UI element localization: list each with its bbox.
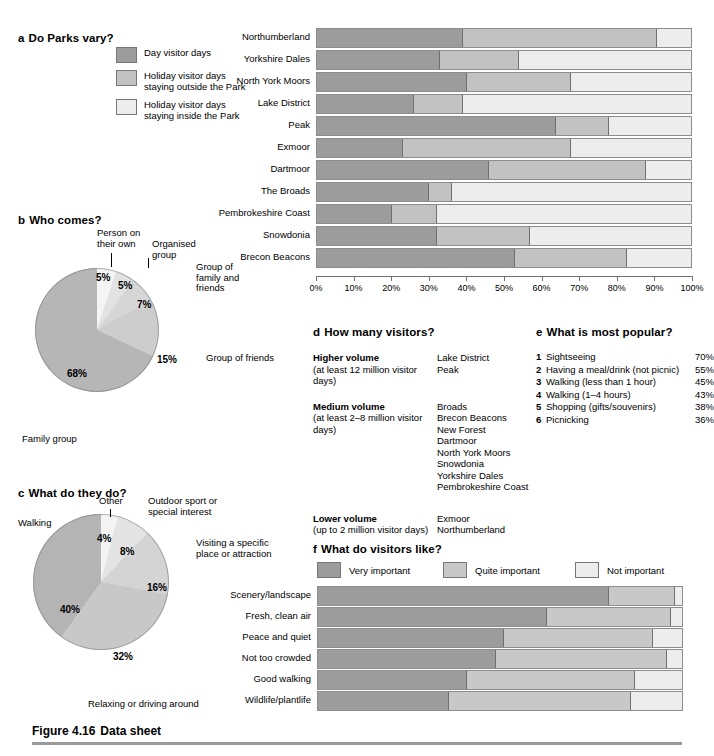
activity-name: Walking (less than 1 hour)	[546, 376, 686, 389]
pie-b-leader-line	[111, 253, 112, 267]
rank: 5	[536, 401, 546, 414]
bar-row: Exmoor	[316, 138, 692, 158]
panel-d-title: dHow many visitors?	[313, 326, 525, 338]
legend-item-very-important: Very important	[317, 562, 443, 578]
bar-row: Brecon Beacons	[316, 248, 692, 268]
bar-segment	[429, 183, 451, 201]
bar-row-label: Fresh, clean air	[246, 610, 311, 621]
bar-segment	[496, 650, 667, 668]
legend-label: Holiday visitor daysstaying outside the …	[144, 70, 245, 92]
bar-segment	[317, 95, 414, 113]
rank: 1	[536, 351, 546, 364]
list-item: 4 Walking (1–4 hours) 43%	[536, 389, 714, 402]
bar-segment	[463, 95, 691, 113]
bar-row-label: North York Moors	[237, 75, 310, 86]
bar-segment	[467, 73, 572, 91]
bar-row: Dartmoor	[316, 160, 692, 180]
bar-segment	[317, 29, 463, 47]
bar-row-label: Lake District	[258, 97, 310, 108]
pie-b-leader-line	[148, 258, 149, 268]
bar-segment	[392, 205, 437, 223]
rank: 6	[536, 414, 546, 427]
legend-label: Day visitor days	[144, 47, 211, 59]
figure-caption: Figure 4.16Data sheet	[32, 724, 161, 738]
bar-segment	[635, 671, 682, 689]
bar-segment	[317, 205, 392, 223]
pie-b-pct-group-of-friends: 15%	[157, 354, 177, 365]
panel-f-legend: Very important Quite important Not impor…	[317, 562, 683, 578]
bar-row: Fresh, clean air	[317, 607, 683, 625]
bar-segment	[317, 183, 429, 201]
popular-activity-list: 1 Sightseeing 70% 2 Having a meal/drink …	[536, 351, 714, 427]
panel-f-chart: Scenery/landscapeFresh, clean airPeace a…	[317, 586, 683, 712]
park-name: Broads	[437, 401, 528, 413]
bar-segment	[318, 608, 547, 626]
bar-track	[317, 649, 683, 669]
list-item: 2 Having a meal/drink (not picnic) 55%	[536, 364, 714, 377]
legend-label: Very important	[349, 565, 410, 576]
bar-segment	[467, 671, 634, 689]
legend-swatch-icon	[116, 99, 137, 115]
panel-b-letter: b	[18, 214, 25, 226]
bar-segment	[414, 95, 463, 113]
panel-e-title: eWhat is most popular?	[536, 326, 714, 338]
panel-a-chart: NorthumberlandYorkshire DalesNorth York …	[316, 28, 692, 270]
pie-b-label-person-own: Person ontheir own	[97, 228, 140, 249]
bar-segment	[318, 692, 449, 710]
legend-label: Not important	[607, 565, 664, 576]
bar-row: Not too crowded	[317, 649, 683, 667]
bar-segment	[403, 139, 571, 157]
rank: 4	[536, 389, 546, 402]
bar-segment	[437, 227, 531, 245]
bar-track	[316, 204, 692, 224]
bar-segment	[627, 249, 691, 267]
bar-segment	[318, 587, 609, 605]
caption-rule	[32, 742, 682, 745]
bar-row: Snowdonia	[316, 226, 692, 246]
bar-row-label: The Broads	[261, 185, 310, 196]
park-name: Northumberland	[437, 524, 505, 536]
park-name: North York Moors	[437, 447, 528, 459]
pie-b-label-group-of-friends: Group of friends	[206, 353, 274, 364]
bar-track	[316, 182, 692, 202]
axis-tick-label: 70%	[570, 283, 588, 293]
volume-group-medium: Medium volume (at least 2–8 million visi…	[313, 401, 525, 493]
bar-segment	[571, 73, 691, 91]
bar-row: Good walking	[317, 670, 683, 688]
panel-d-title-text: How many visitors?	[324, 326, 434, 338]
bar-segment	[317, 161, 489, 179]
pie-c-pct-visiting-place: 16%	[147, 582, 167, 593]
list-item: 6 Picnicking 36%	[536, 414, 714, 427]
park-name: Lake District	[437, 352, 489, 364]
axis-tick-label: 40%	[457, 283, 475, 293]
pie-b-pct-family-group: 68%	[67, 368, 87, 379]
list-item: 3 Walking (less than 1 hour) 45%	[536, 376, 714, 389]
pie-c-leader-line	[110, 509, 111, 517]
pie-c-pct-relaxing: 32%	[113, 651, 133, 662]
axis-tick	[579, 276, 580, 281]
panel-b-title: bWho comes?	[18, 214, 102, 226]
activity-value: 43%	[686, 389, 714, 402]
axis-tick-label: 0%	[309, 283, 322, 293]
volume-heading: Higher volume	[313, 352, 437, 364]
bar-segment	[609, 117, 691, 135]
bar-track	[317, 691, 683, 711]
bar-segment	[318, 671, 467, 689]
pie-c-label-outdoor-sport: Outdoor sport orspecial interest	[148, 496, 217, 517]
bar-row: Peace and quiet	[317, 628, 683, 646]
bar-segment	[449, 692, 631, 710]
bar-row-label: Exmoor	[277, 141, 310, 152]
axis-tick	[316, 276, 317, 281]
bar-row-label: Northumberland	[242, 31, 310, 42]
bar-segment	[317, 73, 467, 91]
bar-track	[316, 50, 692, 70]
bar-track	[317, 607, 683, 627]
panel-a-axis: 0%10%20%30%40%50%60%70%80%90%100%	[316, 276, 692, 300]
panel-f-letter: f	[313, 543, 317, 555]
bar-segment	[631, 692, 682, 710]
bar-segment	[317, 51, 440, 69]
volume-park-list: Lake District Peak	[437, 352, 489, 387]
pie-c-pct-outdoor-sport: 8%	[120, 546, 134, 557]
axis-tick	[654, 276, 655, 281]
bar-row-label: Not too crowded	[242, 652, 311, 663]
